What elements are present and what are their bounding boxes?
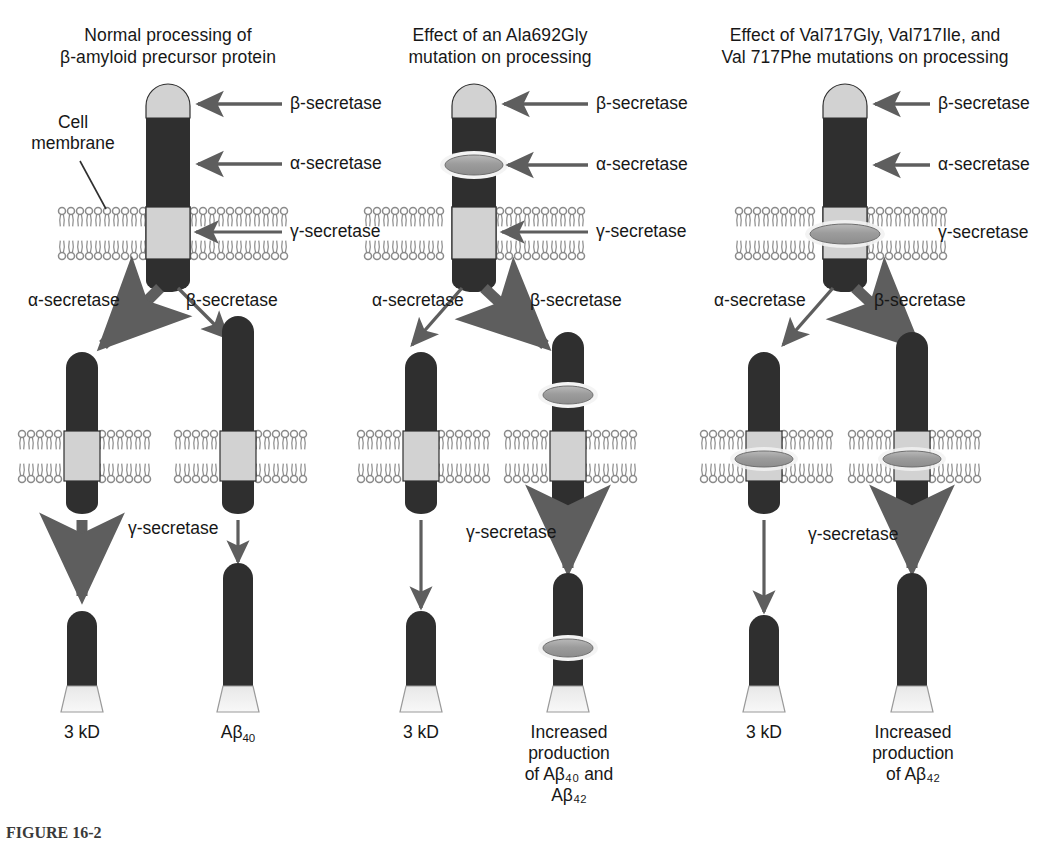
beta-secretase-label-p3: β-secretase xyxy=(938,93,1030,114)
product-3kd-p2 xyxy=(400,611,442,712)
alpha-branch-label-p3: α-secretase xyxy=(714,290,806,311)
gamma-secretase-label-p1: γ-secretase xyxy=(290,221,380,242)
product-3kd-p1 xyxy=(61,611,103,712)
beta-secretase-label-p1: β-secretase xyxy=(290,93,382,114)
alpha-fragment-p1 xyxy=(19,352,151,514)
beta-fragment-p3 xyxy=(849,332,981,514)
figure-caption: FIGURE 16-2 xyxy=(6,824,102,841)
beta-branch-label-p1: β-secretase xyxy=(186,290,278,311)
alpha-secretase-label-p1: α-secretase xyxy=(290,153,382,174)
gamma-step-label-p1: γ-secretase xyxy=(128,518,218,539)
panel-ala692gly xyxy=(358,84,637,712)
beta-fragment-p2 xyxy=(505,332,637,514)
abeta-prefix: Aβ xyxy=(221,722,243,742)
gamma-secretase-label-p3: γ-secretase xyxy=(938,222,1028,243)
alpha-branch-label-p1: α-secretase xyxy=(28,290,120,311)
mutation-marker-alpha-p2 xyxy=(440,151,508,179)
product-label-abeta40-p1: Aβ40 xyxy=(188,722,288,745)
figure-root: Normal processing of β-amyloid precursor… xyxy=(0,0,1038,841)
app-processing-diagram xyxy=(0,0,1038,841)
cell-membrane-label: Cell membrane xyxy=(8,112,138,154)
mutation-marker-gamma-p3 xyxy=(805,220,885,248)
beta-fragment-p1 xyxy=(175,316,307,514)
beta-branch-label-p2: β-secretase xyxy=(530,290,622,311)
app-protein-full-p1 xyxy=(146,84,190,292)
product-label-3kd-p2: 3 kD xyxy=(371,722,471,743)
product-label-3kd-p1: 3 kD xyxy=(32,722,132,743)
product-label-3kd-p3: 3 kD xyxy=(714,722,814,743)
product-label-increased-42-p3: Increased production of Aβ₄₂ xyxy=(842,722,984,785)
panel-title-val717: Effect of Val717Gly, Val717Ile, and Val … xyxy=(700,24,1030,68)
alpha-fragment-p2 xyxy=(358,352,490,514)
gamma-step-label-p3: γ-secretase xyxy=(808,524,898,545)
product-3kd-p3 xyxy=(743,615,785,712)
alpha-fragment-p3 xyxy=(701,352,833,514)
cell-membrane-leader xyxy=(80,161,106,209)
product-abeta-increased-p2 xyxy=(538,573,598,712)
product-label-increased-40-42-p2: Increased production of Aβ₄₀ and Aβ₄₂ xyxy=(498,722,640,806)
alpha-branch-label-p2: α-secretase xyxy=(372,290,464,311)
product-abeta42-increased-p3 xyxy=(891,573,933,712)
product-abeta40-p1 xyxy=(217,563,259,712)
app-protein-full-p3 xyxy=(823,84,867,292)
panel-val717 xyxy=(701,84,981,712)
alpha-secretase-label-p3: α-secretase xyxy=(938,154,1030,175)
beta-secretase-label-p2: β-secretase xyxy=(596,93,688,114)
abeta-subscript: 40 xyxy=(242,732,255,744)
panel-title-ala692gly: Effect of an Ala692Gly mutation on proce… xyxy=(380,24,620,68)
alpha-secretase-label-p2: α-secretase xyxy=(596,154,688,175)
panel-normal xyxy=(19,84,307,712)
gamma-secretase-label-p2: γ-secretase xyxy=(596,221,686,242)
beta-branch-label-p3: β-secretase xyxy=(874,290,966,311)
gamma-step-label-p2: γ-secretase xyxy=(466,522,556,543)
app-protein-full-p2 xyxy=(452,84,496,292)
panel-title-normal: Normal processing of β-amyloid precursor… xyxy=(48,24,288,68)
